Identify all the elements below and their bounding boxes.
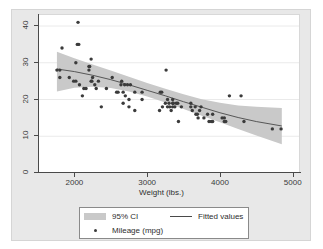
scatter-point xyxy=(169,109,172,112)
scatter-point xyxy=(160,90,163,93)
scatter-point xyxy=(127,105,130,108)
legend-item-fitted-values: Fitted values xyxy=(170,209,243,223)
y-axis-tick-mark xyxy=(34,172,38,173)
scatter-point xyxy=(129,83,132,86)
scatter-point xyxy=(121,90,124,93)
fitted-line-swatch-icon xyxy=(170,216,192,217)
scatter-point xyxy=(116,90,119,93)
scatter-point xyxy=(81,94,84,97)
x-axis-tick-mark xyxy=(220,173,221,177)
scatter-point xyxy=(173,105,176,108)
scatter-point xyxy=(68,76,71,79)
scatter-point xyxy=(133,90,136,93)
scatter-point xyxy=(189,101,192,104)
scatter-point xyxy=(89,57,92,60)
scatter-point xyxy=(166,98,169,101)
y-axis-tick-label: 10 xyxy=(21,131,30,140)
scatter-point xyxy=(127,98,130,101)
x-axis-title: Weight (lbs.) xyxy=(0,188,323,197)
scatter-point xyxy=(140,98,143,101)
scatter-point xyxy=(202,116,205,119)
y-axis-tick-label: 40 xyxy=(21,21,30,30)
scatter-point xyxy=(140,90,143,93)
scatter-point xyxy=(123,83,126,86)
scatter-point xyxy=(196,116,199,119)
scatter-point xyxy=(189,105,192,108)
x-axis-tick-label: 3000 xyxy=(138,178,156,187)
x-axis-line xyxy=(38,172,301,173)
y-axis-tick-mark xyxy=(34,62,38,63)
scatter-point xyxy=(224,120,227,123)
scatter-point xyxy=(91,76,94,79)
y-axis-tick-label: 0 xyxy=(21,170,30,174)
ci-band-swatch-icon xyxy=(84,213,106,220)
scatter-point xyxy=(206,113,209,116)
scatter-point xyxy=(164,101,167,104)
scatter-point xyxy=(211,113,214,116)
scatter-point xyxy=(119,83,122,86)
legend-item-mileage: Mileage (mpg) xyxy=(84,223,163,237)
y-axis-line xyxy=(38,14,39,173)
scatter-point xyxy=(88,65,91,68)
figure: 010203040 2000300040005000 Weight (lbs.)… xyxy=(0,0,323,249)
y-axis-tick-mark xyxy=(34,25,38,26)
scatter-point xyxy=(223,116,226,119)
scatter-point xyxy=(177,120,180,123)
y-axis-tick-label: 30 xyxy=(21,57,30,66)
scatter-point xyxy=(124,94,127,97)
scatter-point xyxy=(120,79,123,82)
legend-label-mileage: Mileage (mpg) xyxy=(112,226,163,235)
scatter-point xyxy=(105,87,108,90)
scatter-point xyxy=(97,79,100,82)
scatter-point xyxy=(126,83,129,86)
plot-svg xyxy=(38,15,300,172)
scatter-point xyxy=(164,68,167,71)
scatter-point xyxy=(78,83,81,86)
scatter-point xyxy=(84,87,87,90)
scatter-point xyxy=(271,127,274,130)
scatter-point xyxy=(161,105,164,108)
scatter-point xyxy=(176,101,179,104)
scatter-point xyxy=(158,109,161,112)
y-axis-tick-mark xyxy=(34,99,38,100)
scatter-point xyxy=(76,21,79,24)
legend-label-fitted-values: Fitted values xyxy=(198,212,243,221)
scatter-point xyxy=(111,76,114,79)
scatter-point xyxy=(279,127,282,130)
scatter-point xyxy=(172,101,175,104)
scatter-point xyxy=(194,105,197,108)
x-axis-tick-label: 5000 xyxy=(284,178,302,187)
scatter-point xyxy=(191,109,194,112)
scatter-point xyxy=(121,101,124,104)
legend-item-ci: 95% CI xyxy=(84,209,138,223)
scatter-point xyxy=(55,68,58,71)
scatter-point xyxy=(228,94,231,97)
scatter-point xyxy=(239,94,242,97)
scatter-point xyxy=(196,113,199,116)
x-axis-tick-mark xyxy=(147,173,148,177)
scatter-point xyxy=(58,68,61,71)
legend: 95% CI Fitted values Mileage (mpg) xyxy=(79,207,249,239)
scatter-point xyxy=(95,87,98,90)
scatter-point xyxy=(87,68,90,71)
scatter-point xyxy=(133,109,136,112)
scatter-point xyxy=(198,109,201,112)
scatter-point xyxy=(171,98,174,101)
scatter-dot-icon xyxy=(94,229,97,232)
scatter-point xyxy=(60,46,63,49)
y-axis-tick-mark xyxy=(34,135,38,136)
marker-swatch-icon xyxy=(84,229,106,232)
x-axis-tick-mark xyxy=(293,173,294,177)
legend-label-ci: 95% CI xyxy=(112,212,138,221)
scatter-point xyxy=(167,101,170,104)
scatter-point xyxy=(93,83,96,86)
scatter-point xyxy=(211,120,214,123)
x-axis-tick-mark xyxy=(74,173,75,177)
scatter-point xyxy=(180,105,183,108)
scatter-point xyxy=(58,76,61,79)
scatter-point xyxy=(77,43,80,46)
scatter-point xyxy=(242,120,245,123)
x-axis-tick-label: 2000 xyxy=(65,178,83,187)
plot-area xyxy=(38,14,300,172)
scatter-point xyxy=(168,105,171,108)
